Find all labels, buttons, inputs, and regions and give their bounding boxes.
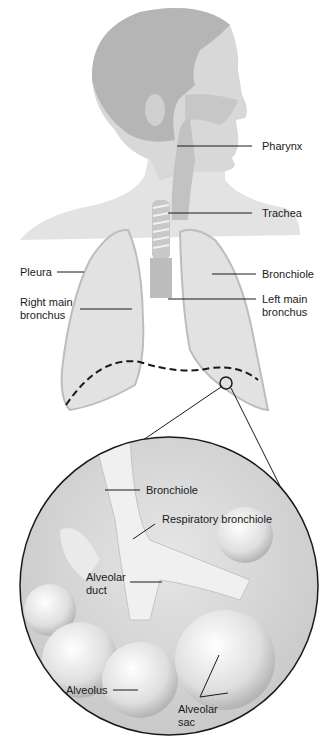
inset-label-respiratory-bronchiole: Respiratory bronchiole (162, 513, 272, 526)
label-right-main-bronchus-line1: Right main (20, 296, 73, 309)
respiratory-diagram (0, 0, 320, 741)
left-lung (180, 230, 268, 410)
inset-label-alveolar-duct-line1: Alveolar (86, 571, 126, 584)
label-left-main-bronchus-line2: bronchus (262, 306, 307, 319)
trachea-illustration (150, 200, 172, 298)
label-trachea: Trachea (262, 207, 302, 220)
label-bronchiole: Bronchiole (262, 268, 314, 281)
inset-label-alveolar-duct-line2: duct (86, 584, 107, 597)
inset-label-alveolar-sac-line1: Alveolar (178, 703, 218, 716)
inset-label-bronchiole: Bronchiole (146, 484, 198, 497)
label-right-main-bronchus-line2: bronchus (20, 309, 65, 322)
label-pleura: Pleura (20, 266, 52, 279)
label-pharynx: Pharynx (262, 140, 302, 153)
label-left-main-bronchus-line1: Left main (262, 293, 307, 306)
inset-label-alveolar-sac-line2: sac (178, 716, 195, 729)
right-lung (62, 230, 144, 410)
inset-label-alveolus: Alveolus (66, 684, 108, 697)
alveoli-inset (20, 437, 318, 735)
